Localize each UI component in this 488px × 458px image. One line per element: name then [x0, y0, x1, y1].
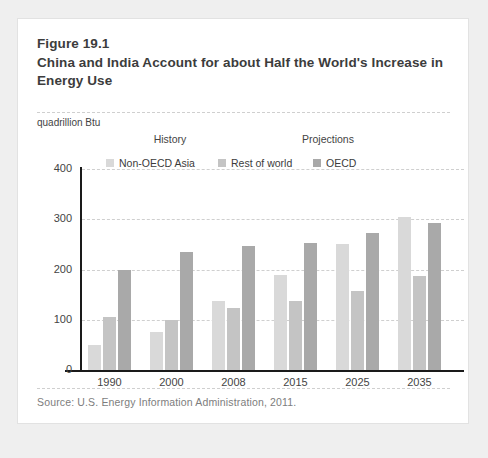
bar-rest-of-world-2008: [227, 308, 240, 370]
bar-non-oecd-asia-2015: [274, 275, 287, 370]
source-divider: [37, 388, 450, 389]
y-axis-tick-label: 100: [32, 313, 72, 325]
bar-non-oecd-asia-2000: [150, 332, 163, 370]
bar-oecd-2000: [180, 252, 193, 370]
bar-oecd-2015: [304, 243, 317, 370]
y-axis-tick-label: 0: [32, 363, 72, 375]
bar-chart: quadrillion Btu History Projections 0100…: [18, 117, 470, 382]
figure-page: Figure 19.1 China and India Account for …: [0, 0, 488, 458]
bar-rest-of-world-1990: [103, 317, 116, 370]
figure-title-block: Figure 19.1 China and India Account for …: [37, 35, 447, 90]
figure-title: China and India Account for about Half t…: [37, 54, 447, 90]
legend-item-rest-of-world: Rest of world: [218, 157, 292, 169]
source-note: Source: U.S. Energy Information Administ…: [37, 396, 296, 408]
bar-rest-of-world-2025: [351, 291, 364, 370]
bar-non-oecd-asia-2008: [212, 301, 225, 370]
bar-oecd-2008: [242, 246, 255, 370]
y-axis-tick-label: 200: [32, 263, 72, 275]
bar-rest-of-world-2035: [413, 276, 426, 370]
legend-label: OECD: [326, 157, 356, 169]
legend-item-non-oecd-asia: Non-OECD Asia: [106, 157, 195, 169]
figure-number: Figure 19.1: [37, 35, 447, 53]
legend-swatch-icon: [313, 159, 321, 167]
x-axis-tick-label: 2008: [203, 376, 265, 388]
chart-legend: Non-OECD AsiaRest of worldOECD: [18, 157, 470, 173]
x-axis-tick-label: 2035: [389, 376, 451, 388]
bar-oecd-2035: [428, 223, 441, 370]
bar-oecd-1990: [118, 270, 131, 371]
x-axis-line: [65, 370, 464, 372]
legend-swatch-icon: [218, 159, 226, 167]
legend-swatch-icon: [106, 159, 114, 167]
legend-label: Rest of world: [231, 157, 292, 169]
x-axis-tick-label: 2025: [327, 376, 389, 388]
bar-non-oecd-asia-2035: [398, 217, 411, 370]
bar-non-oecd-asia-1990: [88, 345, 101, 370]
legend-item-oecd: OECD: [313, 157, 356, 169]
bar-oecd-2025: [366, 233, 379, 370]
figure-card: Figure 19.1 China and India Account for …: [17, 18, 469, 424]
x-axis-tick-label: 2000: [141, 376, 203, 388]
title-divider: [37, 112, 450, 113]
x-axis-tick-label: 1990: [79, 376, 141, 388]
bar-non-oecd-asia-2025: [336, 244, 349, 370]
bar-rest-of-world-2015: [289, 301, 302, 370]
legend-label: Non-OECD Asia: [119, 157, 195, 169]
bar-rest-of-world-2000: [165, 320, 178, 370]
x-axis-tick-label: 2015: [265, 376, 327, 388]
y-axis-tick-label: 300: [32, 212, 72, 224]
